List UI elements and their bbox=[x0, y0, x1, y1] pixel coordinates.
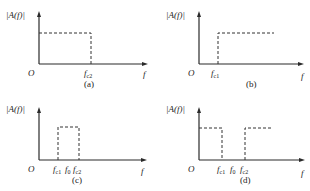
filter-diagram: |A(f)| O f fc2 (a) |A(f)| O f fc1 (b) |A… bbox=[0, 0, 310, 191]
origin-label: O bbox=[188, 164, 195, 174]
y-axis-label: |A(f)| bbox=[166, 10, 185, 20]
passband-response bbox=[39, 33, 91, 64]
x-axis-label: f bbox=[301, 71, 305, 81]
freq-label-fc1: fc1 bbox=[53, 164, 61, 175]
freq-label-f0: f0 bbox=[65, 164, 71, 175]
x-axis-label: f bbox=[301, 168, 305, 178]
freq-label-fc2: fc2 bbox=[73, 164, 81, 175]
y-axis-arrow-icon bbox=[197, 107, 201, 113]
panel-caption: (a) bbox=[84, 79, 94, 89]
passband-response bbox=[58, 127, 79, 160]
origin-label: O bbox=[28, 164, 35, 174]
y-axis-label: |A(f)| bbox=[166, 104, 185, 114]
freq-label-fc2: fc2 bbox=[84, 68, 92, 79]
lower-passband-response bbox=[199, 128, 222, 160]
panel-c-band-pass: |A(f)| O f fc1 f0 fc2 (c) bbox=[6, 104, 147, 185]
x-axis-label: f bbox=[141, 166, 145, 176]
freq-label-fc2: fc2 bbox=[240, 164, 248, 175]
y-axis-arrow-icon bbox=[37, 107, 41, 113]
passband-response bbox=[218, 33, 274, 64]
x-axis-arrow-icon bbox=[141, 158, 147, 162]
panel-caption: (c) bbox=[72, 175, 82, 185]
panel-caption: (d) bbox=[240, 175, 251, 185]
freq-label-fc1: fc1 bbox=[211, 68, 219, 79]
origin-label: O bbox=[188, 68, 195, 78]
panel-b-high-pass: |A(f)| O f fc1 (b) bbox=[166, 10, 305, 89]
panel-caption: (b) bbox=[246, 79, 257, 89]
upper-passband-response bbox=[245, 128, 271, 160]
freq-label-fc1: fc1 bbox=[217, 164, 225, 175]
freq-label-f0: f0 bbox=[230, 164, 236, 175]
y-axis-label: |A(f)| bbox=[6, 10, 25, 20]
x-axis-arrow-icon bbox=[142, 62, 148, 66]
y-axis-arrow-icon bbox=[197, 11, 201, 17]
x-axis-arrow-icon bbox=[299, 158, 305, 162]
origin-label: O bbox=[28, 68, 35, 78]
y-axis-label: |A(f)| bbox=[6, 104, 25, 114]
x-axis-arrow-icon bbox=[298, 62, 304, 66]
panel-a-low-pass: |A(f)| O f fc2 (a) bbox=[6, 10, 148, 89]
panel-d-band-stop: |A(f)| O f fc1 f0 fc2 (d) bbox=[166, 104, 305, 185]
x-axis-label: f bbox=[143, 69, 147, 79]
y-axis-arrow-icon bbox=[37, 11, 41, 17]
